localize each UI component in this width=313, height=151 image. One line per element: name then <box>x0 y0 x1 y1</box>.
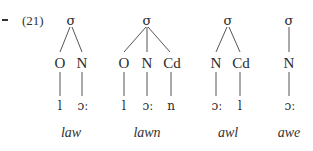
segment: ɔː <box>78 100 89 112</box>
syllable-node: σ <box>143 14 152 27</box>
word-gloss: awe <box>278 126 301 140</box>
nucleus-node: N <box>77 56 88 71</box>
word-gloss: lawn <box>133 126 160 140</box>
nucleus-node: N <box>142 56 153 71</box>
word-gloss: law <box>61 126 81 140</box>
segment: l <box>122 100 126 112</box>
nucleus-node: N <box>211 56 222 71</box>
syllable-node: σ <box>224 14 233 27</box>
nucleus-node: N <box>284 56 295 71</box>
coda-node: Cd <box>232 56 250 71</box>
syllable-node: σ <box>285 14 294 27</box>
segment: ɔː <box>143 100 154 112</box>
coda-node: Cd <box>163 56 181 71</box>
onset-node: O <box>55 56 66 71</box>
segment: n <box>167 100 175 112</box>
word-gloss: awl <box>218 126 238 140</box>
syllable-node: σ <box>67 14 76 27</box>
segment: ɔː <box>285 100 296 112</box>
onset-node: O <box>119 56 130 71</box>
segment: l <box>238 100 242 112</box>
segment: ɔː <box>212 100 223 112</box>
segment: l <box>58 100 62 112</box>
